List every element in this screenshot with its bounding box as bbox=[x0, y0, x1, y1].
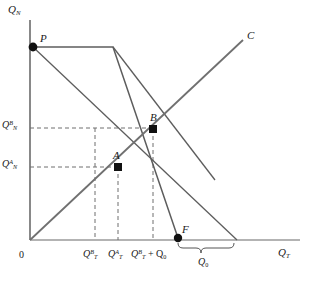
y-axis-label: QN bbox=[8, 4, 21, 17]
point-label-b: B bbox=[150, 112, 157, 123]
brace-label-q0: Q0 bbox=[198, 257, 208, 268]
point-label-a: A bbox=[113, 150, 120, 161]
x-tick-qt-a: QAT bbox=[108, 249, 122, 260]
point-b-marker bbox=[149, 125, 157, 133]
point-p-marker bbox=[29, 43, 38, 52]
curve-label-c: C bbox=[247, 30, 254, 41]
origin-label: 0 bbox=[19, 250, 24, 260]
budget-line-1 bbox=[33, 47, 178, 238]
curve-group bbox=[30, 40, 243, 240]
x-tick-qt-b-plus-q0: QBT + Q0 bbox=[131, 249, 166, 260]
point-markers bbox=[29, 43, 183, 243]
economics-diagram-figure: QN QT 0 QBN QAN QBT QAT QBT + Q0 P A B F… bbox=[0, 0, 310, 291]
axis-lines bbox=[30, 20, 300, 240]
point-f-marker bbox=[174, 234, 182, 242]
y-tick-qn-a: QAN bbox=[2, 159, 17, 170]
y-tick-qn-b: QBN bbox=[2, 120, 17, 131]
ray-c bbox=[30, 40, 243, 240]
x-axis-label: QT bbox=[278, 247, 290, 260]
point-label-f: F bbox=[182, 224, 189, 235]
brace-path bbox=[178, 243, 234, 253]
brace-q0 bbox=[178, 243, 234, 253]
x-tick-qt-b: QBT bbox=[83, 249, 97, 260]
point-a-marker bbox=[114, 163, 122, 171]
point-label-p: P bbox=[40, 33, 47, 44]
